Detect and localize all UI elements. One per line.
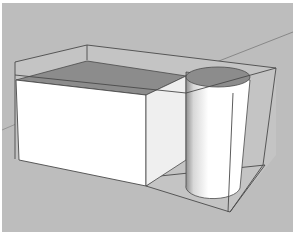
render-frame bbox=[0, 0, 301, 235]
cylinder-body bbox=[186, 72, 250, 199]
box-front-face bbox=[16, 80, 146, 186]
axis-line-left bbox=[2, 124, 16, 130]
scene-canvas[interactable] bbox=[0, 0, 301, 235]
